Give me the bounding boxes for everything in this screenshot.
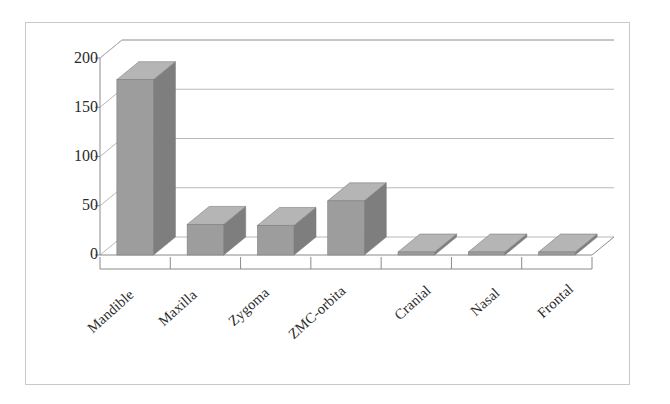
x-tick-label: Frontal <box>534 280 577 321</box>
x-tick-label: Cranial <box>391 282 435 324</box>
x-axis-tick-labels: Mandible Maxilla Zygoma ZMC-orbita Crani… <box>0 0 670 404</box>
x-tick-label: Zygoma <box>225 284 273 329</box>
x-tick-label: ZMC-orbita <box>285 282 349 342</box>
x-tick-label: Nasal <box>467 285 503 320</box>
x-tick-label: Mandible <box>84 286 137 336</box>
x-tick-label: Maxilla <box>155 286 200 329</box>
chart-screenshot: 200 150 100 50 0 Mandible Maxilla Zygoma… <box>0 0 670 404</box>
